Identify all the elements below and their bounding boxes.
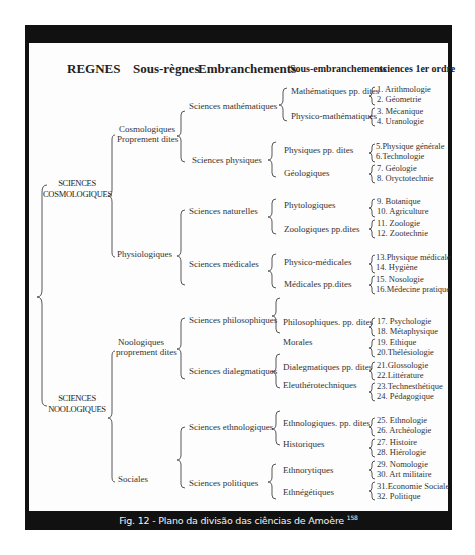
science-item: 23.Technesthétique — [377, 381, 443, 391]
sous-regne-line1: Cosmologiques — [119, 124, 178, 134]
science-item: 12. Zootechnie — [377, 228, 428, 238]
science-item: 8. Oryctotechnie — [377, 173, 434, 183]
sous-embranchement: Philosophiques. pp. dites — [283, 317, 373, 327]
science-item: 29. Nomologie — [377, 459, 428, 469]
science-item: 26. Archéologie — [377, 425, 431, 435]
science-item: 25. Ethnologie — [377, 415, 427, 425]
embranchement-naturelles: Sciences naturelles — [189, 206, 258, 216]
science-item: 9. Botanique — [377, 196, 420, 206]
science-item: 11. Zoologie — [377, 218, 420, 228]
sous-regne-noologiques-pp: Noologiques proprement dites — [118, 337, 177, 357]
science-item: 13.Physique médicale — [376, 252, 451, 262]
sous-embranchement: Historiques — [283, 439, 325, 449]
caption-text: Fig. 12 - Plano da divisão das ciências … — [119, 515, 344, 526]
science-item: 19. Ethique — [377, 337, 416, 347]
science-item: 20.Thélésiologie — [377, 347, 434, 357]
sous-embranchement: Phytologiques — [284, 200, 336, 210]
science-item: 31.Economie Sociale — [377, 481, 449, 491]
sous-embranchement: Physico-médicales — [284, 257, 351, 267]
sous-embranchement: Zoologiques pp.dites — [284, 224, 360, 234]
science-item: 32. Politique — [377, 491, 420, 501]
sous-embranchement: Géologiques — [284, 168, 330, 178]
science-item: 2. Géometrie — [377, 94, 421, 104]
caption-footnote: 158 — [347, 514, 358, 521]
science-item: 21.Glossologie — [377, 360, 428, 370]
sous-embranchement: Dialegmatiques pp. dites — [283, 362, 372, 372]
sous-regne-line1: Noologiques — [118, 337, 177, 347]
sous-embranchement: Médicales pp.dites — [284, 279, 351, 289]
science-item: 17. Psychologie — [377, 316, 431, 326]
sous-regne-cosmologiques-pp: Cosmologiques Proprement dites — [119, 124, 178, 144]
science-item: 3. Mécanique — [377, 106, 423, 116]
science-item: 24. Pédagogique — [377, 391, 434, 401]
embranchement-ethnologiques: Sciences ethnologiques — [189, 422, 273, 432]
sous-embranchement: Ethnégétiques — [283, 487, 334, 497]
embranchement-medicales: Sciences médicales — [189, 259, 259, 269]
regne-label-line2: COSMOLOGIQUES — [43, 189, 111, 200]
science-item: 18. Métaphysique — [377, 326, 438, 336]
sous-embranchement: Physiques pp. dites — [284, 145, 353, 155]
sous-regne-line2: proprement dites — [116, 347, 177, 357]
science-item: 10. Agriculture — [377, 206, 428, 216]
sous-regne-line2: Proprement dites — [117, 134, 178, 144]
sous-regne-physiologiques: Physiologiques — [117, 249, 172, 259]
science-item: 22.Littérature — [377, 370, 424, 380]
science-item: 5.Physique générale — [376, 141, 444, 151]
science-item: 4. Uranologie — [377, 116, 424, 126]
sous-embranchement: Morales — [283, 337, 313, 347]
sous-embranchement: Eleuthérotechniques — [283, 380, 356, 390]
science-item: 28. Hiérologie — [377, 447, 426, 457]
sous-embranchement: Ethnorytiques — [283, 465, 334, 475]
regne-cosmologiques: SCIENCES COSMOLOGIQUES — [43, 178, 111, 200]
science-item: 14. Hygiène — [376, 262, 418, 272]
regne-label-line1: SCIENCES — [43, 178, 111, 189]
science-item: 30. Art militaire — [377, 469, 432, 479]
science-item: 15. Nosologie — [376, 274, 424, 284]
science-item: 27. Histoire — [377, 437, 417, 447]
embranchement-politiques: Sciences politiques — [189, 478, 258, 488]
science-item: 16.Médecine pratique — [376, 284, 450, 294]
sous-embranchement: Physico-mathématiques — [291, 111, 377, 121]
regne-label-line2: NOOLOGIQUES — [43, 404, 111, 415]
sous-regne-sociales: Sociales — [118, 474, 148, 484]
science-item: 7. Géologie — [377, 163, 417, 173]
regne-label-line1: SCIENCES — [43, 393, 111, 404]
science-item: 1. Arithmologie — [377, 84, 431, 94]
embranchement-philosophiques: Sciences philosophiques — [189, 315, 277, 325]
science-item: 6.Technologie — [376, 151, 424, 161]
embranchement-mathematiques: Sciences mathématiques — [189, 101, 277, 111]
figure-caption: Fig. 12 - Plano da divisão das ciências … — [25, 511, 452, 530]
embranchement-physiques: Sciences physiques — [192, 155, 262, 165]
sous-embranchement: Mathématiques pp. dites — [291, 86, 379, 96]
sous-embranchement: Ethnologiques. pp. dites — [283, 418, 370, 428]
embranchement-dialegmatiques: Sciences dialegmatiques — [189, 366, 277, 376]
regne-noologiques: SCIENCES NOOLOGIQUES — [43, 393, 111, 415]
